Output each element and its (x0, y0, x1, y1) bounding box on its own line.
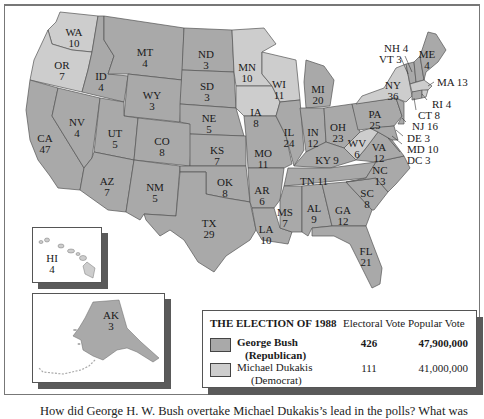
label-ks: KS7 (210, 145, 224, 167)
legend-header-electoral: Electoral Vote (343, 317, 405, 329)
label-ne: NE5 (202, 113, 217, 135)
dukakis-popular-vote: 41,000,000 (419, 362, 469, 374)
label-pa: PA25 (368, 109, 381, 131)
label-al: AL9 (307, 203, 322, 225)
alaska-shape (33, 294, 164, 382)
label-id: ID4 (95, 71, 107, 93)
label-in: IN12 (307, 127, 319, 149)
question-caption: How did George H. W. Bush overtake Micha… (40, 404, 468, 419)
label-ma: MA 13 (437, 77, 468, 88)
label-ny: NY36 (385, 80, 401, 102)
label-co: CO8 (154, 136, 169, 158)
label-ak: AK3 (103, 310, 119, 332)
label-or: OR7 (54, 60, 69, 82)
label-vt: VT 3 (379, 54, 402, 65)
label-la: LA10 (259, 224, 274, 246)
label-dc: DC 3 (407, 155, 431, 166)
hawaii-shape (33, 228, 101, 282)
label-nd: ND3 (198, 49, 214, 71)
label-wy: WY3 (143, 90, 161, 112)
label-ca: CA47 (37, 133, 52, 155)
democrat-swatch (210, 363, 231, 377)
republican-swatch (210, 338, 231, 352)
bush-popular-vote: 47,900,000 (419, 337, 469, 349)
label-ut: UT5 (108, 128, 123, 150)
legend-header-popular: Popular Vote (408, 317, 465, 329)
label-oh: OH23 (330, 122, 346, 144)
label-sd: SD3 (200, 81, 214, 103)
label-mn: MN10 (238, 62, 256, 84)
label-mo: MO11 (254, 148, 272, 170)
label-mi: MI20 (311, 84, 324, 106)
label-va: VA12 (372, 142, 386, 164)
label-tx: TX29 (202, 218, 217, 240)
dukakis-electoral-vote: 111 (361, 362, 377, 374)
label-ia: IA8 (250, 107, 262, 129)
label-az: AZ7 (100, 176, 115, 198)
legend-title: THE ELECTION OF 1988 (210, 317, 336, 329)
label-nm: NM5 (146, 182, 164, 204)
label-ar: AR6 (254, 185, 269, 207)
bush-candidate: George Bush (Republican) (237, 336, 306, 362)
hawaii-inset: HI4 (32, 227, 102, 283)
alaska-inset: AK3 (32, 293, 165, 383)
state-ny (356, 64, 412, 104)
election-legend: THE ELECTION OF 1988 Electoral Vote Popu… (202, 310, 477, 388)
label-sc: SC8 (360, 188, 373, 210)
label-me: ME4 (419, 49, 436, 71)
label-wi: WI11 (272, 79, 286, 101)
label-hi: HI4 (46, 253, 58, 275)
label-ga: GA12 (335, 205, 351, 227)
label-wa: WA10 (65, 27, 82, 49)
label-nj: NJ 16 (412, 121, 438, 132)
dukakis-candidate: Michael Dukakis (Democrat) (237, 361, 312, 387)
bush-electoral-vote: 426 (361, 337, 378, 349)
state-ri (422, 90, 428, 98)
label-nv: NV4 (69, 117, 85, 139)
label-nc: NC13 (372, 165, 387, 187)
label-ky: KY 9 (315, 155, 339, 166)
label-tn: TN 11 (300, 176, 328, 187)
label-fl: FL21 (360, 246, 373, 268)
label-wv: WV6 (348, 138, 366, 160)
label-mt: MT4 (137, 47, 154, 69)
label-il: IL24 (284, 127, 295, 149)
label-ms: MS7 (277, 207, 293, 229)
label-ok: OK8 (217, 177, 233, 199)
state-ct (412, 90, 422, 100)
